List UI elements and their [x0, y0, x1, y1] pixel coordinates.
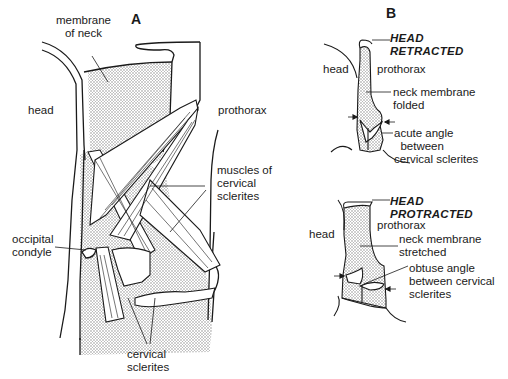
panel-a-letter: A	[131, 12, 141, 27]
label-obtuse-angle: obtuse angle between cervical sclerites	[409, 262, 495, 301]
label-neck-membrane-folded: neck membrane folded	[393, 86, 475, 112]
label-head-protracted: HEAD PROTRACTED	[390, 195, 473, 221]
label-head-b-retracted: head	[323, 63, 349, 76]
label-prothorax-b-retracted: prothorax	[377, 63, 426, 76]
label-neck-membrane-stretched: neck membrane stretched	[399, 233, 481, 259]
panel-b-letter: B	[386, 6, 396, 21]
label-acute-angle: acute angle between cervical sclerites	[394, 127, 478, 166]
label-prothorax-a: prothorax	[218, 104, 267, 117]
label-head-retracted: HEAD RETRACTED	[390, 32, 464, 58]
label-membrane-of-neck: membrane of neck	[56, 14, 111, 40]
label-muscles-of-cervical-sclerites: muscles of cervical sclerites	[217, 164, 272, 203]
label-occipital-condyle: occipital condyle	[12, 233, 54, 259]
panel-a-drawing	[42, 42, 220, 355]
label-prothorax-b-protracted: prothorax	[377, 219, 426, 232]
label-cervical-sclerites-a: cervical sclerites	[127, 348, 169, 374]
label-head-b-protracted: head	[309, 228, 335, 241]
label-head-a: head	[28, 104, 54, 117]
insect-neck-diagram: A membrane of neck head prothorax muscle…	[0, 0, 508, 379]
